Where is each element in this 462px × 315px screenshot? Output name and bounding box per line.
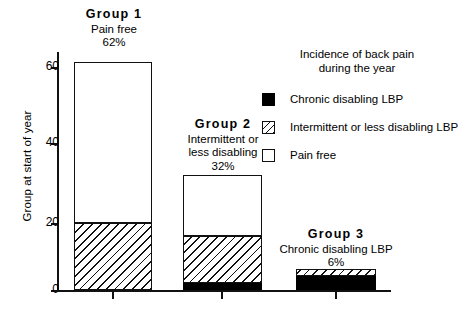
- bar-segment-white: [74, 62, 152, 223]
- legend-title-line-2: during the year: [319, 62, 396, 74]
- bar-segment-white: [183, 175, 262, 236]
- legend-label-pain-free: Pain free: [290, 149, 336, 162]
- group-description-line: Pain free: [58, 23, 170, 37]
- group-description-line: Intermittent or: [166, 133, 280, 147]
- group-caption-group-3: Group 3Chronic disabling LBP6%: [272, 228, 400, 270]
- y-axis-tick-label: 40: [25, 136, 59, 148]
- group-title-group-3: Group 3: [272, 228, 400, 242]
- bar-segment-black: [183, 283, 262, 290]
- group-description-line: Chronic disabling LBP: [272, 243, 400, 257]
- bar-segment-hatch: [183, 236, 262, 283]
- legend-swatch-icon-hatch: [262, 121, 275, 134]
- bar-segment-hatch: [74, 223, 152, 290]
- group-title-group-1: Group 1: [58, 8, 170, 22]
- stacked-bar-chart: Group at start of year 6040200 Group 1Pa…: [0, 0, 462, 315]
- y-axis-tick-label: 60: [25, 60, 59, 72]
- y-axis-line: [57, 52, 59, 291]
- legend-swatch-icon-white: [262, 149, 275, 162]
- y-axis-tick-label: 20: [25, 216, 59, 228]
- legend-title: Incidence of back pain during the year: [268, 48, 446, 75]
- legend-swatch-icon-black: [262, 93, 275, 106]
- group-percent-group-1: 62%: [58, 36, 170, 50]
- y-axis-tick-label: 0: [25, 283, 59, 295]
- legend-title-line-1: Incidence of back pain: [300, 48, 414, 60]
- legend-label-chronic-disabling-lbp: Chronic disabling LBP: [290, 93, 403, 106]
- bar-segment-black: [296, 276, 376, 290]
- group-caption-group-1: Group 1Pain free62%: [58, 8, 170, 50]
- bar-segment-hatch: [296, 269, 376, 276]
- legend-label-intermittent-lbp: Intermittent or less disabling LBP: [290, 121, 458, 134]
- legend: Incidence of back pain during the year C…: [262, 48, 462, 75]
- y-axis-title: Group at start of year: [21, 76, 33, 256]
- group-percent-group-3: 6%: [272, 256, 400, 270]
